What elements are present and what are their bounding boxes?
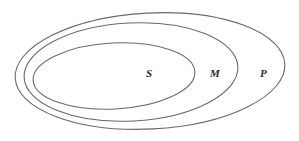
euler-diagram: S M P [0,0,299,141]
set-s-label: S [146,67,152,79]
set-p-label: P [260,67,267,79]
set-m-label: M [209,67,221,79]
diagram-svg: S M P [0,0,299,141]
set-s-ellipse [31,39,196,113]
